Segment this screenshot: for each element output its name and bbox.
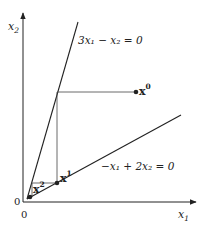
point-x0-label: x0 bbox=[139, 82, 151, 98]
point-x2-label: x2 bbox=[33, 180, 45, 196]
iteration-diagram: x2 x1 0 0 3x₁ − x₂ = 0 −x₁ + 2x₂ = 0 x0 … bbox=[0, 0, 207, 229]
origin-x-label: 0 bbox=[21, 209, 27, 220]
point-x1-label: x1 bbox=[60, 169, 72, 185]
x-axis-label: x1 bbox=[178, 208, 189, 223]
steep-line-equation: 3x₁ − x₂ = 0 bbox=[78, 34, 143, 46]
point-x0 bbox=[134, 90, 139, 95]
shallow-line-equation: −x₁ + 2x₂ = 0 bbox=[101, 160, 175, 172]
point-x2 bbox=[28, 195, 33, 200]
origin-y-label: 0 bbox=[14, 196, 20, 207]
shallow-constraint-line bbox=[27, 115, 181, 199]
point-x1 bbox=[55, 181, 60, 186]
y-axis-label: x2 bbox=[8, 20, 19, 35]
